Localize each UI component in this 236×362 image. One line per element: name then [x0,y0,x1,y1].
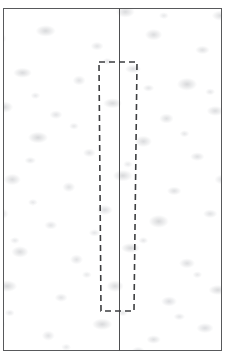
dashed-region-of-interest [0,0,236,362]
roi-polygon [99,62,137,311]
figure-root [0,0,236,362]
roi-outline-svg [0,0,236,362]
